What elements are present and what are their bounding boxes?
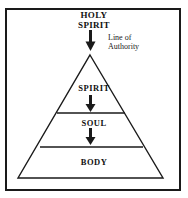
tier-label-soul: SOUL [0, 118, 188, 128]
tier-label-spirit: SPIRIT [0, 83, 188, 93]
tier-label-body: BODY [0, 157, 188, 167]
arrow-down-spirit-icon [85, 95, 96, 112]
diagram-canvas: HOLY SPIRIT Line of Authority SPIRIT SOU… [0, 0, 188, 198]
arrow-down-soul-icon [85, 128, 96, 145]
